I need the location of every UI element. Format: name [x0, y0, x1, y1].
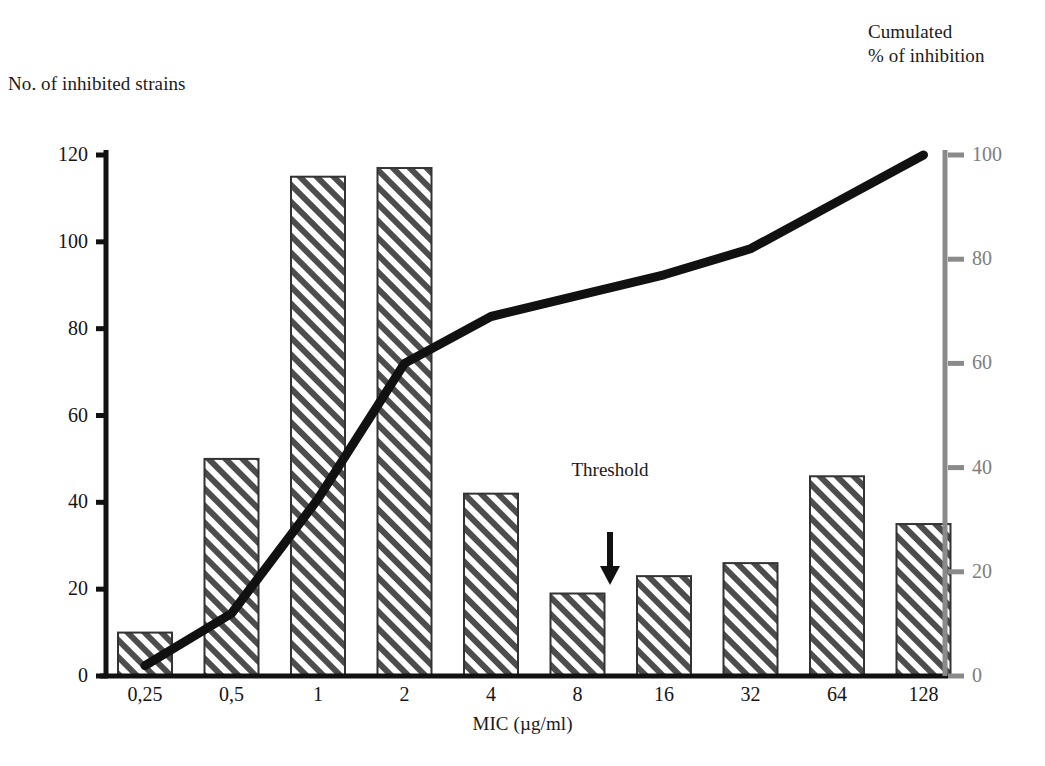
x-tick-label: 16: [619, 684, 709, 704]
left-axis-title: No. of inhibited strains: [8, 72, 186, 96]
x-axis-title: MIC (µg/ml): [0, 712, 1045, 736]
bar: [897, 524, 951, 676]
plot-canvas: [0, 0, 1045, 766]
x-tick-label: 8: [533, 684, 623, 704]
right-axis-title-line2: % of inhibition: [868, 45, 985, 66]
x-tick-label: 32: [706, 684, 796, 704]
bar: [810, 476, 864, 676]
right-tick-label: 60: [972, 352, 1032, 372]
left-tick-label: 60: [32, 405, 88, 425]
left-tick-label: 80: [32, 318, 88, 338]
left-tick-label: 40: [32, 491, 88, 511]
bar: [291, 177, 345, 676]
left-tick-label: 100: [32, 231, 88, 251]
x-tick-label: 2: [360, 684, 450, 704]
right-axis-title: Cumulated% of inhibition: [868, 20, 985, 68]
threshold-annotation-label: Threshold: [510, 459, 710, 481]
bar: [378, 168, 432, 676]
bar: [724, 563, 778, 676]
down-arrow-icon: [600, 532, 620, 585]
right-axis-title-line1: Cumulated: [868, 21, 952, 42]
right-tick-label: 40: [972, 457, 1032, 477]
x-tick-label: 128: [879, 684, 969, 704]
bar: [205, 459, 259, 676]
x-tick-label: 4: [446, 684, 536, 704]
x-tick-label: 64: [792, 684, 882, 704]
bar: [464, 494, 518, 676]
x-tick-label: 0,5: [187, 684, 277, 704]
bar: [551, 594, 605, 676]
left-tick-label: 0: [32, 665, 88, 685]
right-tick-label: 100: [972, 144, 1032, 164]
right-tick-label: 20: [972, 561, 1032, 581]
x-tick-label: 1: [273, 684, 363, 704]
left-tick-label: 120: [32, 144, 88, 164]
left-tick-label: 20: [32, 578, 88, 598]
right-tick-label: 80: [972, 248, 1032, 268]
chart-figure: No. of inhibited strains Cumulated% of i…: [0, 0, 1045, 766]
bar: [637, 576, 691, 676]
x-tick-label: 0,25: [100, 684, 190, 704]
right-tick-label: 0: [972, 665, 1032, 685]
cumulative-line-series: [145, 155, 924, 666]
